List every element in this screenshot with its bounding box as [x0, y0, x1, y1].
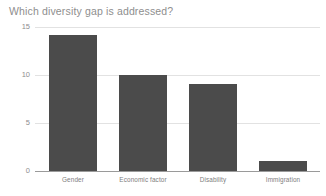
bar-slot-economic-factor: [119, 27, 167, 171]
bar-disability[interactable]: [189, 84, 237, 171]
xtick-label-economic-factor: Economic factor: [105, 176, 181, 183]
ytick-label-10: 10: [22, 71, 30, 79]
xtick-label-disability: Disability: [175, 176, 251, 183]
ytick-label-0: 0: [26, 167, 30, 175]
bar-gender[interactable]: [49, 35, 97, 171]
xtick-label-immigration: Immigration: [245, 176, 321, 183]
bar-economic-factor[interactable]: [119, 75, 167, 171]
axis-baseline-0: 0: [35, 171, 320, 172]
bar-slot-gender: [49, 27, 97, 171]
chart-title: Which diversity gap is addressed?: [9, 5, 173, 17]
ytick-label-5: 5: [26, 119, 30, 127]
bar-slot-disability: [189, 27, 237, 171]
ytick-label-15: 15: [22, 23, 30, 31]
plot-area: 15 10 5 0: [35, 27, 320, 172]
xtick-label-gender: Gender: [35, 176, 111, 183]
bar-immigration[interactable]: [259, 161, 307, 171]
bar-slot-immigration: [259, 27, 307, 171]
bar-chart: Which diversity gap is addressed? 15 10 …: [0, 0, 326, 196]
bar-group: [35, 27, 320, 171]
